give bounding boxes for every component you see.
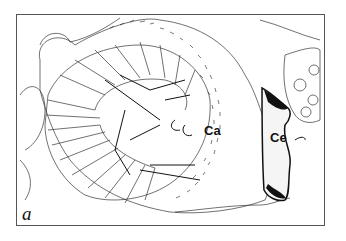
panel-label: a <box>22 203 32 225</box>
label-ce: Ce <box>270 130 287 145</box>
label-ca: Ca <box>204 123 221 138</box>
outer-outline <box>39 19 271 213</box>
line-drawing <box>0 0 346 241</box>
